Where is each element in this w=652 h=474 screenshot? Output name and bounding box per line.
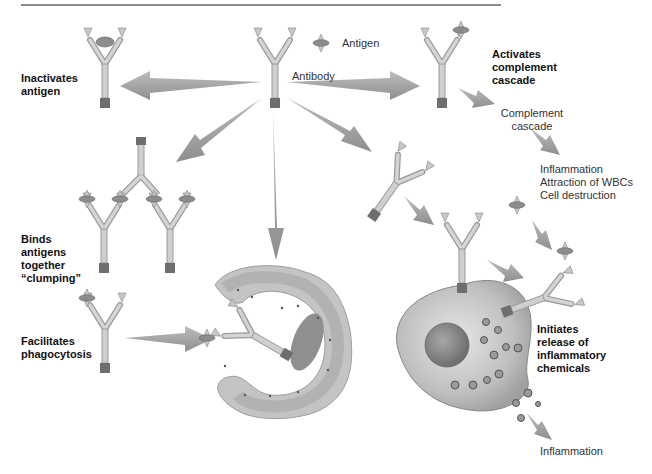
phagocyte-cell [199, 266, 352, 419]
function-facilitates-phagocytosis: Facilitates phagocytosis [21, 335, 92, 361]
clumping-group [79, 137, 195, 273]
function-activates-complement: Activates complement cascade [492, 48, 557, 87]
mast-cell [396, 213, 584, 422]
legend-antibody-label: Antibody [292, 70, 335, 83]
function-initiates-inflammatory-release: Initiates release of inflammatory chemic… [537, 323, 606, 375]
legend-antigen-label: Antigen [342, 37, 379, 50]
outcome-complement-effects: Inflammation Attraction of WBCs Cell des… [540, 163, 633, 202]
outcome-inflammation: Inflammation [540, 445, 603, 458]
outcome-complement-cascade: Complement cascade [500, 107, 564, 133]
legend-antigen-icon [313, 34, 329, 52]
function-inactivates-antigen: Inactivates antigen [21, 72, 78, 98]
function-binds-antigens-clumping: Binds antigens together “clumping” [21, 233, 81, 285]
antibody-central [254, 28, 296, 108]
